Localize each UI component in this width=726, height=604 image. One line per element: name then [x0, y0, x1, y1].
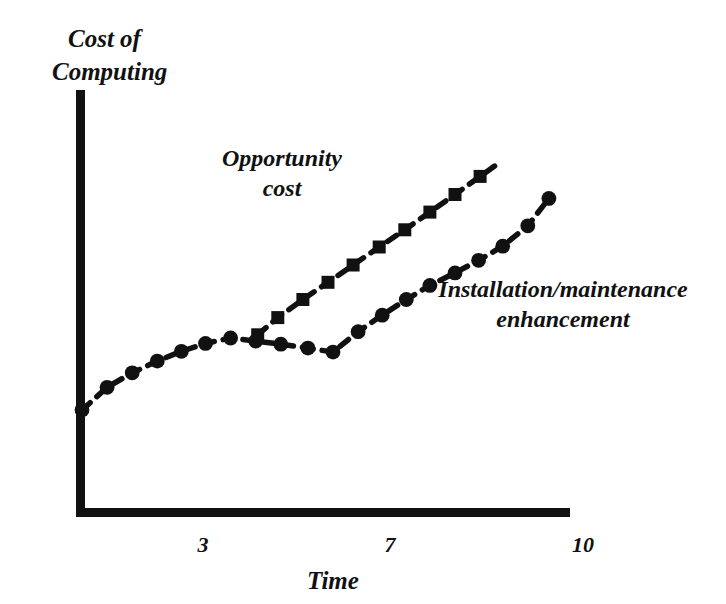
- x-tick-label-3: 3: [197, 532, 209, 557]
- data-point-square: [474, 170, 487, 183]
- data-point-circle: [273, 337, 288, 352]
- data-point-circle: [351, 324, 366, 339]
- data-point-circle: [248, 334, 263, 349]
- data-point-circle: [471, 253, 486, 268]
- data-point-circle: [423, 278, 438, 293]
- data-point-circle: [399, 292, 414, 307]
- x-tick-label-10: 10: [572, 532, 594, 557]
- data-point-circle: [174, 344, 189, 359]
- y-axis-title-line2: Computing: [52, 58, 167, 85]
- data-point-square: [347, 259, 360, 272]
- data-point-circle: [326, 345, 341, 360]
- annotation-opportunity-cost-line1: Opportunity: [222, 145, 342, 171]
- chart-figure: Cost of Computing 3 7 10 Time Opportunit…: [0, 0, 726, 604]
- data-point-circle: [542, 191, 557, 206]
- data-point-circle: [301, 341, 316, 356]
- annotation-opportunity-cost: Opportunity cost: [222, 145, 342, 201]
- data-point-circle: [75, 403, 90, 418]
- annotation-installation-maintenance: Installation/maintenance enhancement: [437, 276, 688, 332]
- x-axis-tick-labels: 3 7 10: [197, 532, 595, 557]
- data-point-circle: [125, 365, 140, 380]
- data-point-circle: [520, 218, 535, 233]
- y-axis-title: Cost of Computing: [52, 25, 167, 85]
- data-point-circle: [100, 380, 115, 395]
- data-point-square: [296, 293, 309, 306]
- annotation-opportunity-cost-line2: cost: [263, 175, 303, 201]
- annotation-installation-line1: Installation/maintenance: [437, 276, 688, 302]
- x-tick-label-7: 7: [385, 532, 397, 557]
- data-point-circle: [375, 308, 390, 323]
- data-point-square: [398, 223, 411, 236]
- data-point-square: [373, 241, 386, 254]
- y-axis-title-line1: Cost of: [68, 25, 144, 52]
- data-point-circle: [223, 331, 238, 346]
- data-point-square: [423, 206, 436, 219]
- x-axis-title: Time: [307, 567, 359, 594]
- data-point-circle: [198, 336, 213, 351]
- annotation-installation-line2: enhancement: [496, 306, 631, 332]
- cost-of-computing-line-chart: Cost of Computing 3 7 10 Time Opportunit…: [0, 0, 726, 604]
- data-point-circle: [495, 239, 510, 254]
- data-point-circle: [150, 354, 165, 369]
- data-point-square: [271, 311, 284, 324]
- series-line-2: [82, 198, 549, 410]
- data-point-square: [322, 276, 335, 289]
- data-point-square: [449, 188, 462, 201]
